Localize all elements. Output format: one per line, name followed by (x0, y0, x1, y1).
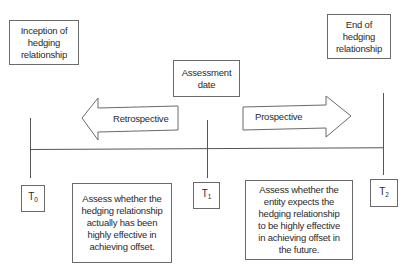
t0-label: T0 (28, 191, 37, 206)
retrospective-description-box: Assess whether the hedging relationship … (72, 183, 172, 263)
t1-label: T1 (202, 188, 211, 203)
inception-box: Inception of hedging relationship (9, 20, 79, 65)
prospective-label: Prospective (255, 111, 302, 122)
assessment-date-box: Assessment date (173, 60, 240, 97)
t2-label: T2 (379, 186, 388, 201)
assessment-date-label: Assessment date (180, 67, 233, 91)
retrospective-description: Assess whether the hedging relationship … (81, 193, 163, 253)
end-label: End of hedging relationship (334, 19, 384, 55)
time-point-t2: T2 (370, 179, 398, 207)
time-point-t0: T0 (21, 185, 45, 212)
prospective-description-box: Assess whether the entity expects the he… (245, 180, 353, 260)
retrospective-label: Retrospective (113, 113, 168, 124)
time-point-t1: T1 (193, 182, 220, 209)
inception-label: Inception of hedging relationship (16, 25, 72, 61)
prospective-description: Assess whether the entity expects the he… (254, 184, 344, 256)
end-box: End of hedging relationship (327, 14, 391, 59)
